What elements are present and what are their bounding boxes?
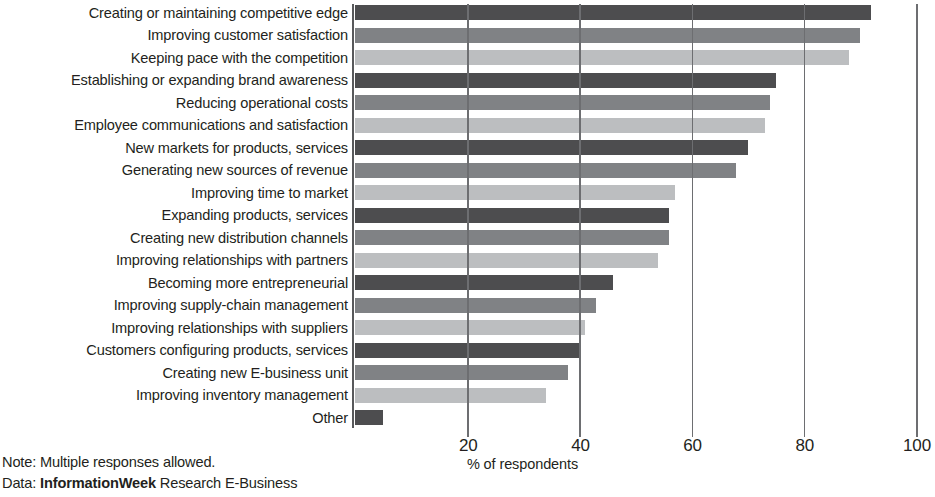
bar bbox=[355, 320, 585, 335]
bar-category-label: Generating new sources of revenue bbox=[0, 162, 348, 178]
bar bbox=[355, 275, 613, 290]
bar-category-label: Keeping pace with the competition bbox=[0, 50, 348, 66]
bar-chart-figure: Creating or maintaining competitive edge… bbox=[0, 0, 935, 497]
gridline bbox=[467, 4, 469, 428]
bar-category-label: Improving relationships with partners bbox=[0, 252, 348, 268]
x-tick-label: 60 bbox=[683, 436, 702, 456]
footer-data-brand: InformationWeek bbox=[40, 475, 156, 491]
x-tick-label: 80 bbox=[796, 436, 815, 456]
bar-category-label: Expanding products, services bbox=[0, 207, 348, 223]
bar-category-label: Establishing or expanding brand awarenes… bbox=[0, 72, 348, 88]
bar-category-label: Improving supply-chain management bbox=[0, 297, 348, 313]
bar bbox=[355, 95, 770, 110]
bar-category-label: Reducing operational costs bbox=[0, 95, 348, 111]
bar-category-label: Improving customer satisfaction bbox=[0, 27, 348, 43]
footer-data-prefix: Data: bbox=[2, 475, 40, 491]
y-axis-line bbox=[352, 4, 354, 428]
bar-category-label: Improving time to market bbox=[0, 185, 348, 201]
gridline bbox=[916, 4, 918, 428]
plot-area: Creating or maintaining competitive edge… bbox=[0, 0, 935, 424]
bar bbox=[355, 118, 765, 133]
gridline bbox=[692, 4, 694, 428]
bar-category-label: Creating or maintaining competitive edge bbox=[0, 5, 348, 21]
bar-category-label: Improving relationships with suppliers bbox=[0, 320, 348, 336]
bar bbox=[355, 388, 546, 403]
x-tick-label: 100 bbox=[903, 436, 931, 456]
bar bbox=[355, 5, 871, 20]
gridline bbox=[579, 4, 581, 428]
bar-category-label: Creating new distribution channels bbox=[0, 230, 348, 246]
bar-category-label: Improving inventory management bbox=[0, 387, 348, 403]
x-tick-label: 20 bbox=[459, 436, 478, 456]
bar bbox=[355, 163, 736, 178]
bar bbox=[355, 73, 776, 88]
bar-category-label: New markets for products, services bbox=[0, 140, 348, 156]
bar bbox=[355, 50, 849, 65]
bar-category-label: Employee communications and satisfaction bbox=[0, 117, 348, 133]
bar bbox=[355, 28, 860, 43]
bar-category-label: Other bbox=[0, 410, 348, 426]
footer-data-suffix: Research E-Business bbox=[156, 475, 297, 491]
bar-category-label: Creating new E-business unit bbox=[0, 365, 348, 381]
bar bbox=[355, 298, 596, 313]
chart-footer: Note: Multiple responses allowed. Data: … bbox=[2, 452, 422, 494]
bar bbox=[355, 185, 675, 200]
bar bbox=[355, 365, 568, 380]
x-tick-label: 40 bbox=[571, 436, 590, 456]
gridline bbox=[804, 4, 806, 428]
bar bbox=[355, 140, 748, 155]
bar bbox=[355, 208, 669, 223]
bar bbox=[355, 230, 669, 245]
footer-data-source: Data: InformationWeek Research E-Busines… bbox=[2, 473, 422, 494]
bar bbox=[355, 253, 658, 268]
bar-category-label: Becoming more entrepreneurial bbox=[0, 275, 348, 291]
bar bbox=[355, 410, 383, 425]
footer-note: Note: Multiple responses allowed. bbox=[2, 452, 422, 473]
bar-category-label: Customers configuring products, services bbox=[0, 342, 348, 358]
